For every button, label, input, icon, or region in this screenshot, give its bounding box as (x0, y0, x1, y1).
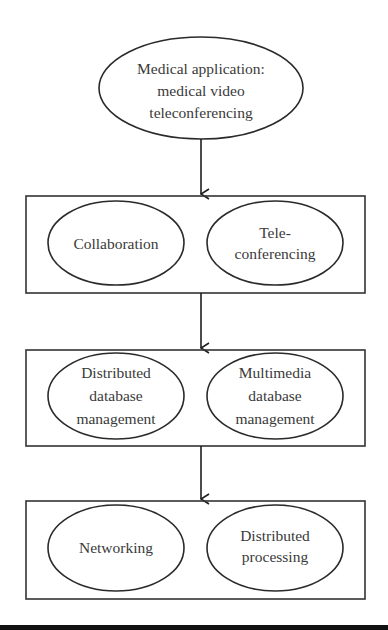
node-label-line-2: database (248, 387, 301, 404)
top-node-line-1: Medical application: (137, 60, 265, 77)
node-teleconferencing: Tele- conferencing (207, 201, 343, 285)
top-node-line-3: teleconferencing (149, 104, 253, 121)
node-collaboration: Collaboration (48, 201, 184, 285)
node-networking: Networking (48, 505, 184, 591)
layer-2-box: Distributed database management Multimed… (26, 350, 365, 446)
node-ellipse (207, 201, 343, 285)
node-label-line-3: management (235, 410, 315, 427)
node-label-line-1: Tele- (259, 224, 291, 241)
bottom-border-bar (0, 625, 388, 630)
node-label-line-1: Collaboration (73, 235, 158, 252)
node-label-line-2: conferencing (235, 245, 316, 262)
node-distributed-database-management: Distributed database management (48, 353, 184, 439)
node-label-line-2: processing (242, 548, 309, 565)
node-label-line-3: management (76, 410, 156, 427)
diagram-canvas: Medical application: medical video telec… (0, 0, 388, 630)
node-distributed-processing: Distributed processing (207, 505, 343, 591)
layer-3-box: Networking Distributed processing (26, 501, 365, 599)
node-label-line-1: Multimedia (239, 364, 311, 381)
node-label-line-1: Distributed (81, 364, 151, 381)
node-label-line-2: database (89, 387, 142, 404)
node-multimedia-database-management: Multimedia database management (207, 353, 343, 439)
top-node-medical-application: Medical application: medical video telec… (99, 37, 303, 139)
top-node-line-2: medical video (157, 82, 245, 99)
node-label-line-1: Distributed (240, 527, 310, 544)
node-label-line-1: Networking (79, 539, 153, 556)
layer-1-box: Collaboration Tele- conferencing (26, 196, 365, 293)
